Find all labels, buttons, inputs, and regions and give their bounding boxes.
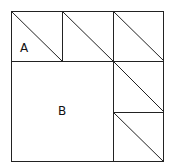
- label-b: B: [58, 104, 66, 118]
- diagonal-cell-5: [113, 112, 164, 162]
- label-a: A: [20, 41, 29, 55]
- diagonal-cell-4: [113, 61, 164, 112]
- diagonal-cell-1: [11, 11, 62, 61]
- diagonal-cell-2: [62, 11, 113, 61]
- diagonal-cell-3: [113, 11, 164, 61]
- geometry-diagram: A B: [0, 0, 176, 167]
